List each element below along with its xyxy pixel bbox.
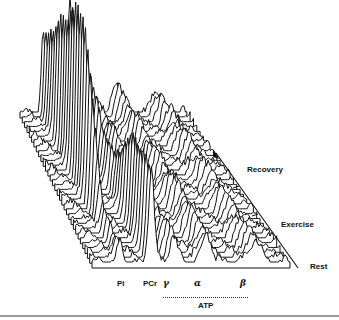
waterfall-plot <box>0 0 339 320</box>
bottom-divider <box>0 315 339 317</box>
label-gamma: γ <box>163 278 169 288</box>
label-atp: ATP <box>198 301 213 310</box>
label-recovery: Recovery <box>247 165 283 174</box>
spectrum-traces <box>20 0 290 268</box>
atp-bracket-dotted-line <box>163 297 248 298</box>
label-beta: β <box>240 278 246 288</box>
label-alpha: α <box>194 278 201 288</box>
label-rest: Rest <box>310 262 327 271</box>
label-pcr: PCr <box>143 279 157 288</box>
label-exercise: Exercise <box>281 220 314 229</box>
label-pi: Pi <box>117 279 125 288</box>
